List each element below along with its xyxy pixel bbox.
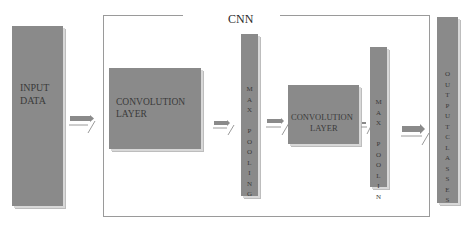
output-label: O U T P U T C L A S S E S xyxy=(437,69,458,206)
conv1-label-line2: LAYER xyxy=(116,108,147,120)
input-label-line1: INPUT xyxy=(20,82,49,94)
conv2-label-line2: LAYER xyxy=(310,122,338,134)
cnn-frame-top-right xyxy=(280,15,430,16)
arrow-icon xyxy=(400,123,434,147)
max-pooling-2-block: M A X P O O L I N xyxy=(370,47,387,187)
conv1-label-line1: CONVOLUTION xyxy=(116,96,185,108)
pool2-label: M A X P O O L I N xyxy=(370,97,387,202)
pool1-label: M A X P O O L I N G xyxy=(241,84,258,200)
cnn-title: CNN xyxy=(228,13,253,25)
input-data-block: INPUT DATA xyxy=(12,26,63,206)
input-label-line2: DATA xyxy=(20,95,46,107)
convolution-layer-2-block: CONVOLUTION LAYER xyxy=(288,85,359,144)
output-classes-block: O U T P U T C L A S S E S xyxy=(437,17,458,203)
arrow-icon xyxy=(212,118,240,138)
convolution-layer-1-block: CONVOLUTION LAYER xyxy=(109,68,201,149)
arrow-icon xyxy=(68,113,98,135)
max-pooling-1-block: M A X P O O L I N G xyxy=(241,34,258,196)
cnn-frame-top-left xyxy=(103,15,183,16)
